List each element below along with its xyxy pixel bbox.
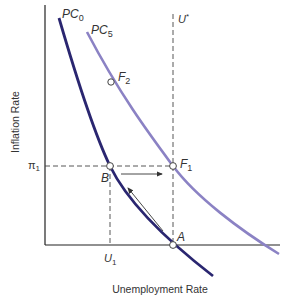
x-axis-title: Unemployment Rate [112, 283, 208, 295]
u1-label: U1 [104, 252, 117, 267]
pc0-curve [59, 18, 213, 276]
point-a [170, 242, 177, 249]
point-b [107, 163, 114, 170]
b-label: B [101, 171, 109, 185]
f1-label: F1 [180, 157, 192, 173]
pc0-label: PC0 [62, 7, 84, 23]
pc5-label: PC5 [91, 23, 113, 39]
a-label: A [176, 230, 185, 244]
y-axis-title: Inflation Rate [9, 91, 21, 153]
f2-label: F2 [118, 70, 130, 86]
phillips-curve-chart: PC0 PC5 U* F2 F1 B A π1 U1 Unemployment … [0, 0, 294, 301]
point-f1 [170, 163, 177, 170]
pc5-curve [87, 32, 279, 254]
natural-rate-label: U* [178, 12, 189, 25]
arrow-a-to-b [128, 188, 163, 231]
pi1-label: π1 [28, 159, 41, 173]
point-f2 [108, 79, 114, 85]
